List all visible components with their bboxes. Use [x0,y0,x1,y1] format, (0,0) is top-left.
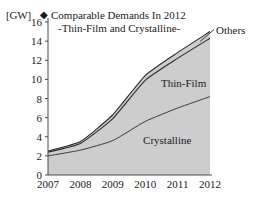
chart-container: [GW] ◆Comparable Demands In 2012 -Thin-F… [0,0,258,197]
x-axis-tick-label: 2011 [167,178,189,190]
y-axis-tick-label: 12 [31,54,42,66]
chart-svg: 0246810121416 200720082009201020112012 O… [0,0,258,197]
x-axis-tick-label: 2009 [102,178,125,190]
series-label-others: Others [216,24,245,36]
y-axis-tick-label: 16 [31,16,43,28]
y-axis-tick-label: 14 [31,35,43,47]
x-axis-tick-label: 2010 [134,178,157,190]
x-axis-tick-label: 2008 [69,178,92,190]
x-axis-tick-label: 2007 [37,178,60,190]
x-axis-tick-labels: 200720082009201020112012 [37,178,221,190]
y-axis-tick-label: 4 [37,131,43,143]
y-axis-tick-labels: 0246810121416 [31,16,43,181]
x-axis-tick-label: 2012 [199,178,221,190]
y-axis-tick-label: 2 [37,150,43,162]
y-axis-tick-label: 10 [31,73,43,85]
series-label-thin-film: Thin-Film [161,77,207,89]
y-axis-tick-label: 6 [37,112,43,124]
series-label-crystalline: Crystalline [143,134,191,146]
y-axis-tick-label: 8 [37,93,43,105]
